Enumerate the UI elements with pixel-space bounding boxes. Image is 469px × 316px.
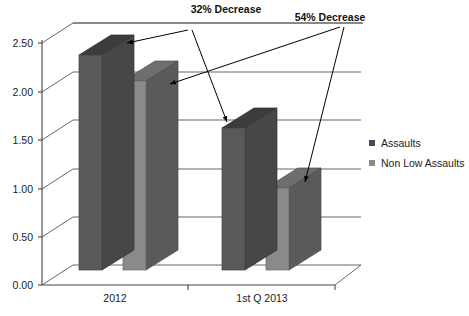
x-tick-label: 2012 xyxy=(103,292,127,304)
legend: Assaults Non Low Assaults xyxy=(369,137,464,169)
bar-side-face xyxy=(102,35,134,270)
x-tick-labels-group: 2012 1st Q 2013 xyxy=(103,292,288,304)
y-tick-label: 2.50 xyxy=(13,37,34,49)
bar-front-face xyxy=(222,128,245,270)
depth-line-1-00 xyxy=(42,169,73,189)
depth-line-2-50 xyxy=(42,23,73,43)
depth-line-2-00 xyxy=(42,72,73,92)
depth-line-0-00 xyxy=(42,265,73,285)
y-tick-label: 0.00 xyxy=(13,279,34,291)
legend-swatch-assaults xyxy=(369,140,375,146)
bar-2013-assaults xyxy=(222,108,277,270)
callout-arrow-to-2013-assaults xyxy=(192,30,227,122)
annotation-label: 54% Decrease xyxy=(295,11,366,23)
legend-item-non-low-assaults[interactable]: Non Low Assaults xyxy=(369,157,464,169)
y-tick-label: 1.00 xyxy=(13,183,34,195)
bar-front-face xyxy=(79,55,102,270)
y-tick-label: 2.00 xyxy=(13,86,34,98)
bar-side-face xyxy=(146,61,178,270)
depth-line-1-50 xyxy=(42,120,73,140)
legend-label-assaults: Assaults xyxy=(381,137,421,149)
chart-container: 2.50 2.00 1.50 1.00 0.50 0.00 xyxy=(0,0,469,316)
annotation-label: 32% Decrease xyxy=(191,3,262,15)
legend-item-assaults[interactable]: Assaults xyxy=(369,137,421,149)
floor-right-edge xyxy=(335,265,361,285)
y-tick-label: 1.50 xyxy=(13,134,34,146)
depth-connectors-group xyxy=(42,23,73,285)
bar-chart-3d: 2.50 2.00 1.50 1.00 0.50 0.00 xyxy=(0,0,469,316)
bar-2012-assaults xyxy=(79,35,134,270)
y-tick-label: 0.50 xyxy=(13,231,34,243)
callout-arrow-to-2012-assaults xyxy=(127,30,188,43)
depth-line-0-50 xyxy=(42,217,73,237)
x-tick-label: 1st Q 2013 xyxy=(236,292,288,304)
bar-side-face xyxy=(245,108,277,270)
callout-arrow-to-2013-non-low xyxy=(305,27,344,182)
legend-swatch-non-low-assaults xyxy=(369,160,375,166)
callout-arrow-to-2012-non-low xyxy=(170,27,340,84)
legend-label-non-low-assaults: Non Low Assaults xyxy=(381,157,464,169)
y-tick-labels-group: 2.50 2.00 1.50 1.00 0.50 0.00 xyxy=(13,37,34,291)
